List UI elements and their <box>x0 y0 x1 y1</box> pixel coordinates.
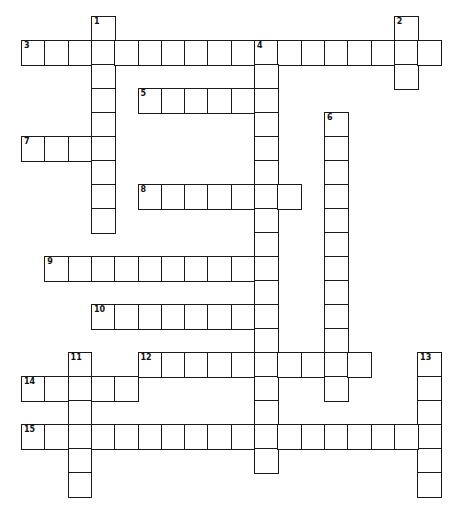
crossword-cell[interactable] <box>138 40 163 66</box>
crossword-cell[interactable]: 4 <box>254 40 279 66</box>
crossword-cell[interactable] <box>371 424 396 450</box>
crossword-cell[interactable] <box>417 472 442 498</box>
crossword-cell[interactable] <box>254 304 279 330</box>
crossword-cell[interactable] <box>347 424 372 450</box>
crossword-cell[interactable] <box>68 400 93 426</box>
crossword-cell[interactable] <box>371 40 396 66</box>
crossword-cell[interactable] <box>347 352 372 378</box>
crossword-cell[interactable] <box>184 424 209 450</box>
crossword-cell[interactable] <box>68 136 93 162</box>
crossword-cell[interactable] <box>184 184 209 210</box>
crossword-cell[interactable] <box>254 232 279 258</box>
crossword-cell[interactable] <box>138 424 163 450</box>
crossword-cell[interactable] <box>254 160 279 186</box>
crossword-cell[interactable] <box>114 256 139 282</box>
crossword-cell[interactable] <box>254 112 279 138</box>
crossword-cell[interactable] <box>277 424 302 450</box>
crossword-cell[interactable] <box>161 40 186 66</box>
crossword-cell[interactable] <box>324 136 349 162</box>
crossword-cell[interactable] <box>254 280 279 306</box>
crossword-cell[interactable] <box>301 424 326 450</box>
crossword-cell[interactable] <box>91 424 116 450</box>
crossword-cell[interactable] <box>207 424 232 450</box>
crossword-cell[interactable] <box>254 376 279 402</box>
crossword-cell[interactable]: 6 <box>324 112 349 138</box>
crossword-cell[interactable]: 1 <box>91 16 116 42</box>
crossword-cell[interactable] <box>68 472 93 498</box>
crossword-cell[interactable] <box>184 256 209 282</box>
crossword-cell[interactable] <box>44 136 69 162</box>
crossword-cell[interactable] <box>91 88 116 114</box>
crossword-cell[interactable] <box>184 88 209 114</box>
crossword-cell[interactable] <box>184 352 209 378</box>
crossword-cell[interactable] <box>394 64 419 90</box>
crossword-cell[interactable] <box>254 400 279 426</box>
crossword-cell[interactable] <box>207 88 232 114</box>
crossword-cell[interactable] <box>324 232 349 258</box>
crossword-cell[interactable] <box>138 256 163 282</box>
crossword-cell[interactable] <box>417 400 442 426</box>
crossword-cell[interactable]: 10 <box>91 304 116 330</box>
crossword-cell[interactable] <box>324 256 349 282</box>
crossword-cell[interactable] <box>394 424 419 450</box>
crossword-cell[interactable] <box>91 112 116 138</box>
crossword-cell[interactable] <box>68 448 93 474</box>
crossword-cell[interactable] <box>324 376 349 402</box>
crossword-cell[interactable] <box>91 376 116 402</box>
crossword-cell[interactable]: 11 <box>68 352 93 378</box>
crossword-cell[interactable] <box>114 424 139 450</box>
crossword-cell[interactable] <box>138 304 163 330</box>
crossword-cell[interactable] <box>324 40 349 66</box>
crossword-cell[interactable] <box>254 64 279 90</box>
crossword-cell[interactable] <box>114 40 139 66</box>
crossword-cell[interactable] <box>394 40 419 66</box>
crossword-cell[interactable] <box>184 40 209 66</box>
crossword-cell[interactable] <box>277 352 302 378</box>
crossword-cell[interactable] <box>184 304 209 330</box>
crossword-cell[interactable] <box>324 424 349 450</box>
crossword-cell[interactable] <box>161 256 186 282</box>
crossword-cell[interactable] <box>324 352 349 378</box>
crossword-cell[interactable] <box>254 136 279 162</box>
crossword-cell[interactable]: 2 <box>394 16 419 42</box>
crossword-cell[interactable] <box>44 40 69 66</box>
crossword-cell[interactable] <box>254 184 279 210</box>
crossword-cell[interactable]: 13 <box>417 352 442 378</box>
crossword-cell[interactable] <box>91 40 116 66</box>
crossword-cell[interactable] <box>207 256 232 282</box>
crossword-cell[interactable] <box>254 352 279 378</box>
crossword-cell[interactable] <box>207 40 232 66</box>
crossword-cell[interactable] <box>161 184 186 210</box>
crossword-cell[interactable] <box>68 256 93 282</box>
crossword-cell[interactable] <box>68 424 93 450</box>
crossword-cell[interactable] <box>44 424 69 450</box>
crossword-cell[interactable] <box>114 376 139 402</box>
crossword-cell[interactable] <box>91 256 116 282</box>
crossword-cell[interactable] <box>91 184 116 210</box>
crossword-cell[interactable]: 8 <box>138 184 163 210</box>
crossword-cell[interactable] <box>254 328 279 354</box>
crossword-cell[interactable] <box>231 352 256 378</box>
crossword-cell[interactable] <box>161 88 186 114</box>
crossword-cell[interactable] <box>68 376 93 402</box>
crossword-cell[interactable] <box>207 352 232 378</box>
crossword-cell[interactable] <box>324 280 349 306</box>
crossword-cell[interactable] <box>324 304 349 330</box>
crossword-cell[interactable] <box>254 448 279 474</box>
crossword-cell[interactable] <box>231 40 256 66</box>
crossword-cell[interactable] <box>161 424 186 450</box>
crossword-cell[interactable] <box>91 136 116 162</box>
crossword-cell[interactable] <box>91 160 116 186</box>
crossword-cell[interactable] <box>207 304 232 330</box>
crossword-cell[interactable] <box>68 40 93 66</box>
crossword-cell[interactable] <box>277 40 302 66</box>
crossword-cell[interactable] <box>91 208 116 234</box>
crossword-cell[interactable] <box>161 304 186 330</box>
crossword-cell[interactable]: 9 <box>44 256 69 282</box>
crossword-cell[interactable] <box>231 256 256 282</box>
crossword-cell[interactable] <box>417 448 442 474</box>
crossword-cell[interactable] <box>44 376 69 402</box>
crossword-cell[interactable] <box>417 40 442 66</box>
crossword-cell[interactable] <box>91 64 116 90</box>
crossword-cell[interactable] <box>231 424 256 450</box>
